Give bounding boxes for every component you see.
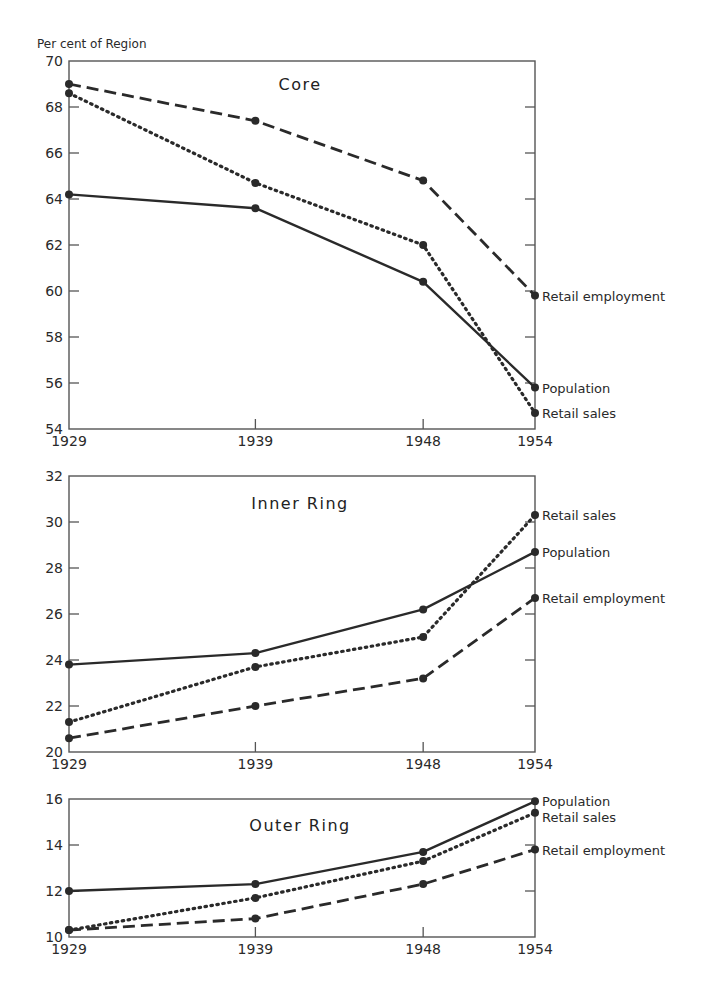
data-point-marker — [419, 848, 427, 856]
x-tick-label: 1939 — [238, 941, 274, 957]
data-point-marker — [65, 661, 73, 669]
x-tick-label: 1948 — [405, 433, 441, 449]
x-tick-label: 1948 — [405, 756, 441, 772]
data-point-marker — [65, 926, 73, 934]
data-point-marker — [419, 674, 427, 682]
panel-title: Core — [278, 75, 321, 94]
y-tick-label: 64 — [45, 191, 63, 207]
data-point-marker — [531, 409, 539, 417]
data-point-marker — [531, 797, 539, 805]
panel-inner-ring: 202224262830321929193919481954Inner Ring… — [45, 468, 665, 772]
series-end-label: Retail employment — [542, 591, 665, 606]
series-retail-sales: Retail sales — [65, 89, 616, 421]
data-point-marker — [419, 857, 427, 865]
data-point-marker — [65, 887, 73, 895]
y-tick-label: 56 — [45, 375, 63, 391]
y-tick-label: 12 — [45, 883, 63, 899]
y-tick-label: 26 — [45, 606, 63, 622]
data-point-marker — [531, 809, 539, 817]
data-point-marker — [251, 663, 259, 671]
chart-canvas: 5456586062646668701929193919481954CorePe… — [0, 0, 710, 1001]
plot-frame — [69, 476, 535, 752]
panel-core: 5456586062646668701929193919481954CorePe… — [37, 37, 665, 449]
x-tick-label: 1929 — [51, 433, 87, 449]
panel-outer-ring: 101214161929193919481954Outer RingPopula… — [45, 791, 665, 957]
series-end-label: Retail employment — [542, 289, 665, 304]
chart-figure: 5456586062646668701929193919481954CorePe… — [0, 0, 710, 1001]
y-tick-label: 68 — [45, 99, 63, 115]
series-end-label: Population — [542, 545, 610, 560]
y-tick-label: 70 — [45, 53, 63, 69]
data-point-marker — [65, 734, 73, 742]
series-end-label: Population — [542, 794, 610, 809]
series-line — [69, 552, 535, 665]
x-tick-label: 1939 — [238, 756, 274, 772]
y-tick-label: 58 — [45, 329, 63, 345]
y-tick-label: 16 — [45, 791, 63, 807]
data-point-marker — [251, 179, 259, 187]
x-tick-label: 1948 — [405, 941, 441, 957]
y-tick-label: 14 — [45, 837, 63, 853]
series-line — [69, 515, 535, 722]
y-tick-label: 28 — [45, 560, 63, 576]
panel-title: Inner Ring — [251, 494, 348, 513]
series-population: Population — [65, 190, 610, 395]
series-end-label: Population — [542, 381, 610, 396]
x-tick-label: 1929 — [51, 756, 87, 772]
y-tick-label: 62 — [45, 237, 63, 253]
x-tick-label: 1954 — [517, 756, 553, 772]
data-point-marker — [251, 915, 259, 923]
data-point-marker — [419, 241, 427, 249]
series-end-label: Retail sales — [542, 406, 616, 421]
series-line — [69, 93, 535, 413]
data-point-marker — [251, 204, 259, 212]
y-axis-label: Per cent of Region — [37, 37, 147, 51]
series-line — [69, 801, 535, 891]
data-point-marker — [531, 548, 539, 556]
data-point-marker — [419, 880, 427, 888]
data-point-marker — [531, 292, 539, 300]
series-line — [69, 194, 535, 387]
series-end-label: Retail sales — [542, 810, 616, 825]
series-line — [69, 84, 535, 296]
series-end-label: Retail employment — [542, 843, 665, 858]
data-point-marker — [65, 89, 73, 97]
plot-frame — [69, 61, 535, 429]
data-point-marker — [251, 880, 259, 888]
y-tick-label: 22 — [45, 698, 63, 714]
series-end-label: Retail sales — [542, 508, 616, 523]
series-line — [69, 598, 535, 738]
x-tick-label: 1954 — [517, 433, 553, 449]
x-tick-label: 1929 — [51, 941, 87, 957]
data-point-marker — [251, 117, 259, 125]
data-point-marker — [419, 177, 427, 185]
series-retail-employment: Retail employment — [65, 591, 665, 742]
y-tick-label: 60 — [45, 283, 63, 299]
y-tick-label: 32 — [45, 468, 63, 484]
x-tick-label: 1954 — [517, 941, 553, 957]
data-point-marker — [251, 702, 259, 710]
panel-title: Outer Ring — [249, 816, 350, 835]
series-population: Population — [65, 545, 610, 669]
data-point-marker — [65, 80, 73, 88]
data-point-marker — [531, 846, 539, 854]
data-point-marker — [65, 190, 73, 198]
data-point-marker — [531, 511, 539, 519]
data-point-marker — [419, 605, 427, 613]
data-point-marker — [251, 649, 259, 657]
data-point-marker — [419, 633, 427, 641]
data-point-marker — [531, 384, 539, 392]
series-retail-employment: Retail employment — [65, 80, 665, 304]
x-tick-label: 1939 — [238, 433, 274, 449]
data-point-marker — [419, 278, 427, 286]
data-point-marker — [531, 594, 539, 602]
data-point-marker — [251, 894, 259, 902]
data-point-marker — [65, 718, 73, 726]
y-tick-label: 66 — [45, 145, 63, 161]
y-tick-label: 30 — [45, 514, 63, 530]
y-tick-label: 24 — [45, 652, 63, 668]
